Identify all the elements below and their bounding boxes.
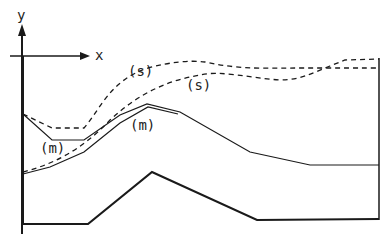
- diagram-canvas: y x (s) (s) (m) (m): [0, 0, 391, 234]
- x-axis-arrowhead-icon: [80, 52, 90, 60]
- y-axis-label: y: [17, 7, 25, 23]
- label-surface-lower: (s): [186, 77, 211, 93]
- label-middle-center: (m): [130, 117, 155, 133]
- label-middle-left: (m): [40, 140, 65, 156]
- y-axis-arrowhead-icon: [18, 24, 26, 36]
- bottom-boundary-line: [23, 172, 379, 224]
- x-axis-label: x: [95, 47, 103, 63]
- label-surface-upper: (s): [128, 63, 153, 79]
- surface-line-upper-dashed: [23, 61, 379, 128]
